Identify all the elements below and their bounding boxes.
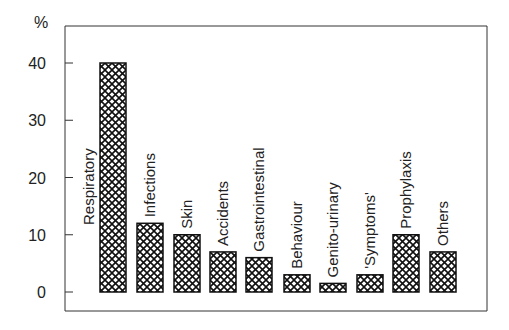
category-label: Accidents [214, 181, 231, 246]
y-axis-ticks: 010203040 [28, 55, 73, 301]
bar-chart: % 010203040 RespiratoryInfectionsSkinAcc… [0, 0, 509, 330]
bar [100, 63, 126, 292]
y-tick-label: 20 [28, 170, 46, 187]
bars: RespiratoryInfectionsSkinAccidentsGastro… [80, 63, 456, 292]
bar [210, 252, 236, 292]
bar [284, 275, 310, 292]
bar [174, 235, 200, 292]
category-label: Prophylaxis [397, 151, 414, 229]
category-label: Behaviour [288, 201, 305, 269]
y-tick-label: 10 [28, 227, 46, 244]
category-label: Infections [141, 153, 158, 217]
bar [393, 235, 419, 292]
category-label: Others [434, 201, 451, 246]
y-tick-label: 0 [37, 284, 46, 301]
category-label: Respiratory [80, 148, 97, 225]
bar [357, 275, 383, 292]
y-tick-label: 30 [28, 112, 46, 129]
plot-frame [65, 26, 487, 311]
bar [430, 252, 456, 292]
y-tick-label: 40 [28, 55, 46, 72]
bar [137, 223, 163, 292]
category-label: Genito-urinary [324, 182, 341, 278]
category-label: Skin [178, 200, 195, 229]
y-axis-label: % [34, 14, 48, 31]
category-label: Gastrointestinal [250, 147, 267, 251]
bar [320, 283, 346, 292]
bar [246, 258, 272, 292]
category-label: 'Symptoms' [361, 192, 378, 269]
